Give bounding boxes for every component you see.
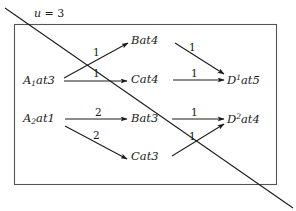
node-d1at5-tail: at5	[241, 73, 260, 87]
cut-label-equals: =	[45, 7, 54, 20]
node-a2at1-tail: at1	[36, 111, 55, 125]
edge-weight-a1-b4: 1	[93, 47, 100, 58]
edge-b4-d1	[175, 43, 224, 74]
node-cat4: Cat4	[131, 74, 159, 86]
node-d2at4-tail: at4	[241, 112, 260, 126]
diagram-graphics	[0, 0, 296, 211]
figure-canvas: u = 3 A1at3 A2at1 Bat4 Cat4 Bat3 Cat3 D1…	[0, 0, 296, 211]
edge-weight-c4-d1: 1	[191, 68, 198, 79]
node-a1at3-tail: at3	[36, 73, 55, 87]
edge-weight-a2-b3: 2	[95, 107, 102, 118]
node-a1at3: A1at3	[23, 75, 55, 88]
cut-label-value: 3	[57, 7, 64, 20]
edge-weight-b3-d2: 1	[191, 107, 198, 118]
node-d2at4-base: D	[227, 112, 236, 126]
edge-weight-a2-c3: 2	[93, 130, 100, 141]
node-cat3: Cat3	[131, 151, 159, 163]
node-d2at4: D2at4	[227, 113, 260, 126]
cut-label-variable: u	[34, 7, 41, 20]
node-d1at5: D1at5	[227, 74, 260, 87]
node-bat4: Bat4	[131, 35, 158, 47]
node-bat3: Bat3	[131, 113, 158, 125]
node-a2at1: A2at1	[23, 113, 55, 126]
edge-weight-c3-d2: 1	[189, 131, 196, 142]
cut-label: u = 3	[34, 8, 64, 19]
edge-weight-b4-d1: 1	[189, 42, 196, 53]
edge-weight-a1-c4: 1	[93, 68, 100, 79]
node-d1at5-base: D	[227, 73, 236, 87]
